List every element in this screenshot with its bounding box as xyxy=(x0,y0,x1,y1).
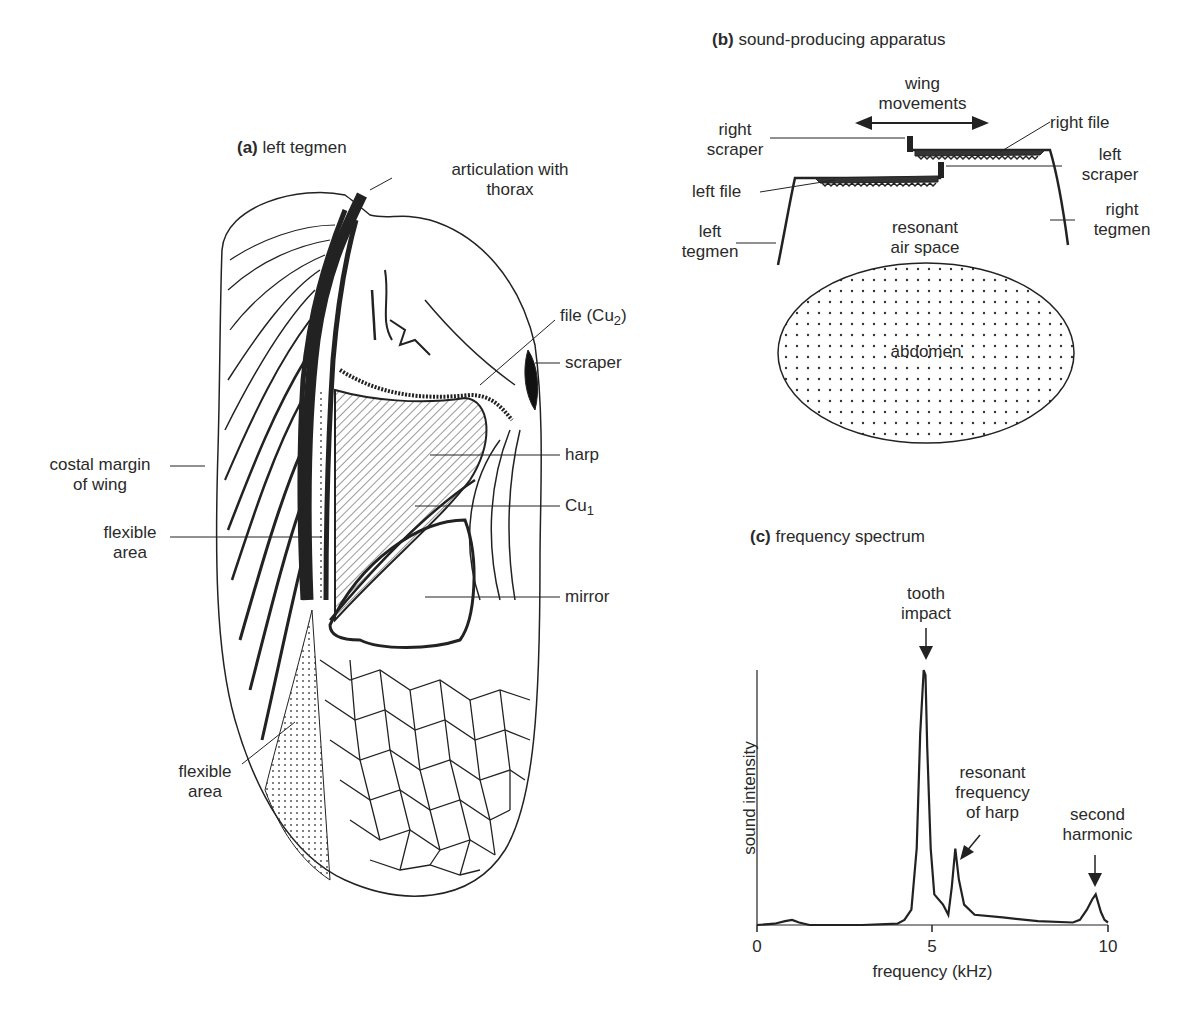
figure-drawing xyxy=(0,0,1201,1018)
label-left-tegmen-line1: left xyxy=(675,222,745,242)
reticulate-mesh xyxy=(320,660,530,875)
x-tick-5: 5 xyxy=(917,937,947,957)
label-left-scraper-line1: left xyxy=(1065,145,1155,165)
right-file xyxy=(915,150,1045,156)
annotation-tooth-line2: impact xyxy=(886,604,966,624)
label-file-text: file (Cu xyxy=(560,306,614,325)
label-flexible-lower-line2: area xyxy=(165,782,245,802)
label-abdomen: abdomen xyxy=(876,342,976,362)
label-cu1-text: Cu xyxy=(565,496,587,515)
label-mirror: mirror xyxy=(565,587,609,607)
label-right-tegmen-line1: right xyxy=(1077,200,1167,220)
label-articulation: articulation with thorax xyxy=(410,160,610,200)
spectrum-chart xyxy=(757,628,1108,932)
right-scraper xyxy=(907,136,913,152)
label-file-cu2: file (Cu2) xyxy=(560,306,627,331)
label-left-scraper-line2: scraper xyxy=(1065,165,1155,185)
label-costal-line2: of wing xyxy=(30,475,170,495)
label-file-sub: 2 xyxy=(614,313,621,328)
annotation-harp-line1: resonant xyxy=(945,763,1040,783)
label-right-scraper: right scraper xyxy=(695,120,775,160)
label-harp: harp xyxy=(565,445,599,465)
panel-b-prefix: (b) xyxy=(712,30,734,49)
panel-a-title-text: left tegmen xyxy=(263,138,347,157)
panel-b-title: (b) sound-producing apparatus xyxy=(712,30,945,50)
label-file-close: ) xyxy=(621,306,627,325)
annotation-tooth-impact: tooth impact xyxy=(886,584,966,624)
label-flexible-upper-line2: area xyxy=(90,543,170,563)
x-tick-0: 0 xyxy=(742,937,772,957)
label-right-tegmen-line2: tegmen xyxy=(1077,220,1167,240)
label-right-scraper-line2: scraper xyxy=(695,140,775,160)
panel-a-title: (a) left tegmen xyxy=(237,138,347,158)
label-wing-line2: movements xyxy=(860,94,985,114)
label-scraper: scraper xyxy=(565,353,622,373)
label-cu1: Cu1 xyxy=(565,496,594,521)
label-right-scraper-line1: right xyxy=(695,120,775,140)
label-resonant-air-space: resonant air space xyxy=(870,218,980,258)
panel-c-title: (c) frequency spectrum xyxy=(750,527,925,547)
label-wing-movements: wing movements xyxy=(860,74,985,114)
annotation-harp-resonance: resonant frequency of harp xyxy=(945,763,1040,823)
label-costal-margin: costal margin of wing xyxy=(30,455,170,495)
label-wing-line1: wing xyxy=(860,74,985,94)
left-scraper xyxy=(938,162,944,178)
flexible-area-lower xyxy=(265,610,330,880)
panel-b-title-text: sound-producing apparatus xyxy=(738,30,945,49)
label-resonant-line1: resonant xyxy=(870,218,980,238)
label-flexible-upper-line1: flexible xyxy=(90,523,170,543)
label-left-file: left file xyxy=(692,182,741,202)
harp-region xyxy=(335,390,486,620)
panel-c-prefix: (c) xyxy=(750,527,771,546)
apparatus-diagram xyxy=(736,116,1075,443)
label-resonant-line2: air space xyxy=(870,238,980,258)
spectrum-line xyxy=(757,670,1108,925)
annotation-second-harmonic: second harmonic xyxy=(1055,805,1140,845)
annotation-tooth-line1: tooth xyxy=(886,584,966,604)
label-cu1-sub: 1 xyxy=(587,503,594,518)
flexible-area-upper xyxy=(318,390,326,600)
label-left-tegmen-line2: tegmen xyxy=(675,242,745,262)
label-right-tegmen: right tegmen xyxy=(1077,200,1167,240)
panel-c-title-text: frequency spectrum xyxy=(776,527,925,546)
x-tick-10: 10 xyxy=(1088,937,1128,957)
x-axis-label: frequency (kHz) xyxy=(860,962,1005,982)
label-articulation-line2: thorax xyxy=(410,180,610,200)
annotation-harmonic-line2: harmonic xyxy=(1055,825,1140,845)
annotation-harp-line3: of harp xyxy=(945,803,1040,823)
label-right-file: right file xyxy=(1050,113,1110,133)
label-left-scraper: left scraper xyxy=(1065,145,1155,185)
label-flexible-area-lower: flexible area xyxy=(165,762,245,802)
label-articulation-line1: articulation with xyxy=(410,160,610,180)
y-axis-label: sound intensity xyxy=(740,738,760,858)
label-left-tegmen: left tegmen xyxy=(675,222,745,262)
label-flexible-lower-line1: flexible xyxy=(165,762,245,782)
annotation-harp-line2: frequency xyxy=(945,783,1040,803)
scraper-structure xyxy=(525,350,538,410)
panel-a-prefix: (a) xyxy=(237,138,258,157)
label-flexible-area-upper: flexible area xyxy=(90,523,170,563)
label-costal-line1: costal margin xyxy=(30,455,170,475)
annotation-harmonic-line1: second xyxy=(1055,805,1140,825)
